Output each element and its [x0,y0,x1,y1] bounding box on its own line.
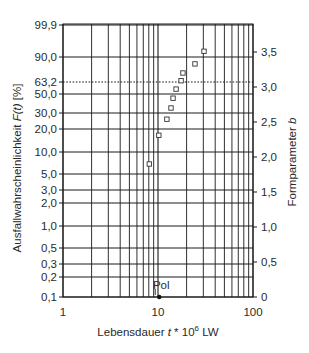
right-tick-label: 0 [261,291,267,303]
right-tick-label: 1,0 [261,221,277,233]
square-marker-icon [193,62,197,66]
left-tick-label: 10,0 [35,146,57,158]
x-tick-label: 100 [243,306,262,318]
pol-dot-icon [157,295,161,299]
right-y-axis-label: Formparameter b [286,117,298,206]
left-y-axis-label: Ausfallwahrscheinlichkeit F(t) [%] [11,84,23,253]
square-marker-icon [174,87,178,91]
right-tick-label: 2,0 [261,151,277,163]
left-tick-label: 5,0 [41,168,57,180]
left-tick-label: 50,0 [35,88,57,100]
x-tick-label: 1 [60,306,66,318]
right-tick-label: 3,5 [261,46,277,58]
square-marker-icon [157,133,161,137]
left-tick-label: 90,0 [35,51,57,63]
left-axis-ticks: 99,990,063,250,030,020,010,05,03,02,01,0… [35,19,63,303]
pol-label: Pol [153,279,170,291]
left-tick-label: 63,2 [35,76,57,88]
square-marker-icon [169,106,173,110]
left-tick-label: 2,0 [41,197,57,209]
right-axis-ticks: 00,51,01,52,02,53,03,5 [253,46,277,303]
left-tick-label: 0,1 [41,291,57,303]
right-tick-label: 1,5 [261,186,277,198]
right-tick-label: 2,5 [261,116,277,128]
square-marker-icon [179,79,183,83]
weibull-chart: 99,990,063,250,030,020,010,05,03,02,01,0… [0,0,309,353]
left-tick-label: 1,0 [41,220,57,232]
square-marker-icon [171,96,175,100]
x-axis-ticks: 110100 [60,306,263,318]
data-points [147,49,206,166]
left-tick-label: 3,0 [41,184,57,196]
left-tick-label: 99,9 [35,19,57,31]
left-tick-label: 0,2 [41,271,57,283]
square-marker-icon [202,49,206,53]
left-tick-label: 0,3 [41,258,57,270]
right-tick-label: 3,0 [261,81,277,93]
square-marker-icon [165,117,169,121]
left-tick-label: 30,0 [35,107,57,119]
square-marker-icon [181,71,185,75]
right-tick-label: 0,5 [261,256,277,268]
square-marker-icon [147,162,151,166]
x-axis-label: Lebensdauer t * 106 LW [97,324,218,338]
vertical-gridlines [63,24,253,297]
x-tick-label: 10 [152,306,165,318]
pol-marker: Pol [153,279,170,299]
left-tick-label: 0,5 [41,242,57,254]
left-tick-label: 20,0 [35,123,57,135]
